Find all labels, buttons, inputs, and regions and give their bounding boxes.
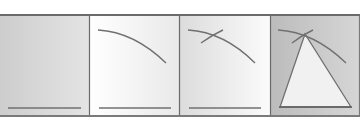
construction-diagram: [0, 14, 360, 117]
panel-step-1: [0, 16, 89, 115]
diagram-canvas: [0, 16, 360, 115]
